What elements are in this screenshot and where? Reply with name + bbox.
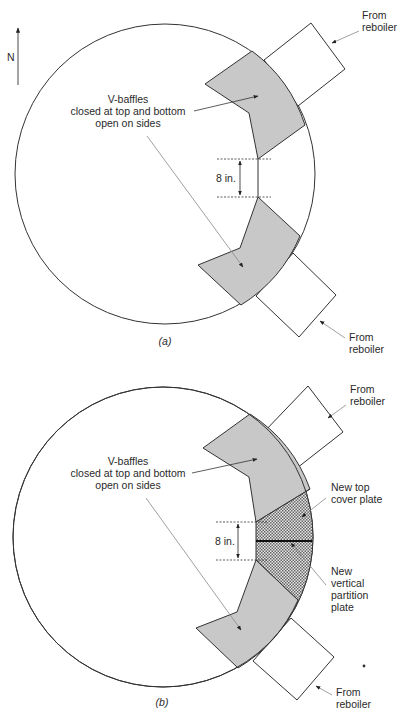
leader-bottom-b	[146, 498, 241, 630]
baffle-label-a-line1: V-baffles	[108, 93, 149, 105]
baffle-label-a-line3: open on sides	[95, 117, 160, 129]
top-cover-label-line2: cover plate	[331, 493, 383, 505]
partition-label-line1: New	[331, 565, 352, 577]
reboiler-top-a-line2: reboiler	[362, 21, 398, 33]
partition-label-line2: vertical	[331, 577, 364, 589]
stray-dot	[363, 665, 366, 668]
north-label: N	[7, 51, 15, 63]
top-cover-label-line1: New top	[331, 481, 370, 493]
reboiler-top-b-line1: From	[350, 383, 375, 395]
reboiler-bottom-a-line2: reboiler	[349, 343, 385, 355]
baffle-label-b-line3: open on sides	[95, 479, 160, 491]
reboiler-bottom-b-line1: From	[336, 686, 361, 698]
reboiler-bottom-a-line1: From	[349, 331, 374, 343]
reboiler-top-a-line1: From	[362, 9, 387, 21]
reboiler-top-b-line2: reboiler	[350, 395, 386, 407]
partition-label-line4: plate	[331, 601, 354, 613]
figure-a: 8 in. V-baffles closed at top and bottom…	[15, 9, 398, 355]
reboiler-bottom-b-line2: reboiler	[336, 698, 372, 710]
dimension-label-b: 8 in.	[215, 535, 235, 547]
dimension-label-a: 8 in.	[216, 172, 236, 184]
caption-a: (a)	[159, 335, 172, 347]
baffle-label-b-line1: V-baffles	[108, 455, 149, 467]
baffle-label-b-line2: closed at top and bottom	[71, 467, 186, 479]
reboiler-baffle-diagram: N 8 in. V-baffles closed at top and bott…	[0, 0, 408, 719]
figure-b: 8 in. V-baffles closed at top and bottom…	[13, 383, 386, 710]
partition-label-line3: partition	[331, 589, 369, 601]
leader-bottom-a	[147, 136, 243, 267]
baffle-label-a-line2: closed at top and bottom	[71, 105, 186, 117]
caption-b: (b)	[156, 696, 169, 708]
